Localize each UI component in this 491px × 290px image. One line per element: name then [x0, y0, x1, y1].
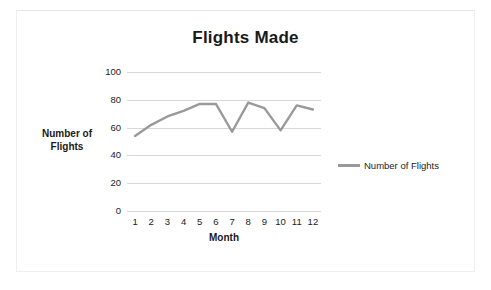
- chart-title: Flights Made: [0, 28, 491, 48]
- y-tick-label-40: 40: [83, 150, 121, 160]
- x-axis-tick-labels: 123456789101112: [127, 216, 321, 230]
- y-tick-label-100: 100: [83, 67, 121, 77]
- legend-label-number-of-flights: Number of Flights: [364, 160, 439, 171]
- y-tick-label-60: 60: [83, 123, 121, 133]
- plot-area: [127, 72, 321, 211]
- y-tick-label-80: 80: [83, 95, 121, 105]
- y-tick-label-20: 20: [83, 178, 121, 188]
- x-tick-label-12: 12: [304, 216, 322, 227]
- gridline-0: [127, 211, 321, 212]
- x-axis-title: Month: [127, 232, 321, 243]
- series-line-number-of-flights: [127, 72, 321, 211]
- chart-legend: Number of Flights: [338, 160, 439, 171]
- legend-swatch-number-of-flights: [338, 164, 360, 167]
- y-tick-label-0: 0: [83, 206, 121, 216]
- chart-canvas: Flights Made Number of Flights 020406080…: [0, 0, 491, 290]
